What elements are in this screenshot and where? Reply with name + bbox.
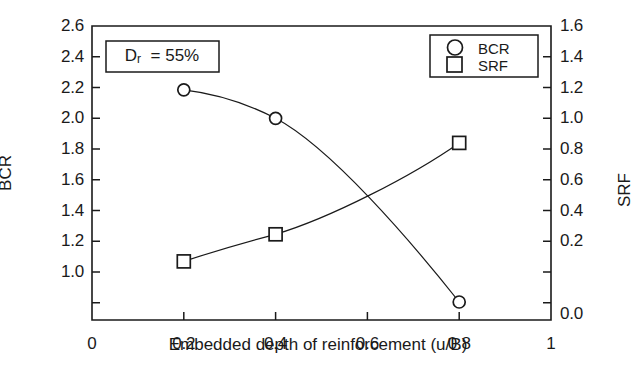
- legend-label-srf: SRF: [478, 56, 508, 73]
- series-markers-bcr: [178, 84, 465, 308]
- ytick-label-left-1-8: 1.8: [22, 139, 84, 159]
- data-point-srf-2: [269, 228, 282, 241]
- data-point-bcr-1: [178, 84, 190, 96]
- right-axis-ticks: [543, 57, 551, 303]
- data-point-bcr-3: [453, 296, 465, 308]
- data-point-srf-1: [177, 255, 190, 268]
- ytick-label-left-2-2: 2.2: [22, 78, 84, 98]
- plot-canvas: [0, 0, 635, 374]
- xtick-label-0: 0: [87, 334, 96, 354]
- x-axis-ticks: [184, 312, 459, 320]
- xtick-label-1: 1: [546, 334, 555, 354]
- annotation-operator: =: [151, 46, 161, 66]
- ytick-label-right-1-6: 1.6: [560, 16, 620, 36]
- ytick-label-left-1-4: 1.4: [22, 201, 84, 221]
- ytick-label-right-1-2: 1.2: [560, 78, 620, 98]
- ytick-label-left-2-0: 2.0: [22, 108, 84, 128]
- ytick-label-right-0-4: 0.4: [560, 201, 620, 221]
- ytick-label-left-2-4: 2.4: [22, 47, 84, 67]
- y-axis-title-right: SRF: [615, 130, 635, 250]
- annotation-symbol: D: [125, 46, 137, 66]
- series-line-bcr: [184, 90, 459, 302]
- y-axis-title-left: BCR: [0, 113, 16, 233]
- data-point-bcr-2: [270, 112, 282, 124]
- chart-figure: 2.6 2.4 2.2 2.0 1.8 1.6 1.4 1.2 1.0 1.6 …: [0, 0, 635, 374]
- legend-label-bcr: BCR: [478, 39, 510, 56]
- ytick-label-right-0-6: 0.6: [560, 170, 620, 190]
- ytick-label-right-1-0: 1.0: [560, 108, 620, 128]
- series-line-srf: [184, 143, 459, 262]
- ytick-label-left-1-2: 1.2: [22, 231, 84, 251]
- ytick-label-left-1-0: 1.0: [22, 262, 84, 282]
- series-markers-srf: [177, 136, 465, 268]
- data-point-srf-3: [453, 136, 466, 149]
- ytick-label-right-0-2: 0.2: [560, 231, 620, 251]
- ytick-label-left-1-6: 1.6: [22, 170, 84, 190]
- ytick-label-right-1-4: 1.4: [560, 47, 620, 67]
- annotation-value: 55%: [165, 46, 199, 66]
- ytick-label-right-0-8: 0.8: [560, 139, 620, 159]
- annotation-subscript: r: [137, 52, 141, 66]
- x-axis-title: Embedded depth of reinforcement (u/B): [103, 335, 533, 355]
- legend-marker-srf: [447, 57, 462, 72]
- annotation-density-label: Dr = 55%: [107, 43, 217, 69]
- left-axis-ticks: [92, 57, 100, 303]
- ytick-label-right-zero: 0.0: [560, 304, 620, 324]
- legend-marker-bcr: [448, 40, 463, 55]
- ytick-label-left-2-6: 2.6: [22, 16, 84, 36]
